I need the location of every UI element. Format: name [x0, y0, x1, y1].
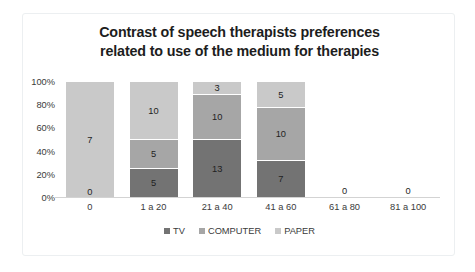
y-tick-100: 100%	[25, 77, 55, 87]
bar-slot-5: 0	[376, 82, 440, 198]
bar-stack-2[interactable]: 13 10 3	[193, 82, 241, 198]
bar-label-empty-4: 0	[313, 186, 377, 196]
y-tick-40: 40%	[25, 147, 55, 157]
bar-segment-computer-2[interactable]: 10	[193, 95, 241, 140]
y-tick-20: 20%	[25, 170, 55, 180]
y-tick-80: 80%	[25, 100, 55, 110]
bar-label-tv-0: 0	[66, 187, 114, 197]
plot-area: 100% 80% 60% 40% 20% 0% 7 0 5 5 10	[58, 82, 440, 198]
bar-segment-paper-2[interactable]: 3	[193, 82, 241, 95]
bar-segment-paper-0[interactable]: 7	[66, 82, 114, 198]
legend-item-paper[interactable]: PAPER	[275, 226, 315, 236]
legend-swatch-paper-icon	[275, 228, 281, 234]
bar-slot-4: 0	[313, 82, 377, 198]
legend-label-tv: TV	[173, 226, 185, 236]
bar-stack-3[interactable]: 7 10 5	[257, 82, 305, 198]
bar-segment-paper-1[interactable]: 10	[130, 82, 178, 140]
bar-label-empty-5: 0	[376, 186, 440, 196]
x-tick-5: 81 a 100	[376, 202, 440, 212]
legend-label-paper: PAPER	[284, 226, 315, 236]
y-tick-60: 60%	[25, 123, 55, 133]
bar-slot-2: 13 10 3	[185, 82, 249, 198]
x-tick-1: 1 a 20	[122, 202, 186, 212]
legend-swatch-computer-icon	[199, 228, 205, 234]
x-tick-2: 21 a 40	[185, 202, 249, 212]
bar-slot-1: 5 5 10	[122, 82, 186, 198]
x-axis-line	[55, 197, 440, 198]
chart-title-line-2: related to use of the medium for therapi…	[23, 42, 456, 61]
x-tick-4: 61 a 80	[313, 202, 377, 212]
legend-swatch-tv-icon	[164, 228, 170, 234]
x-axis: 0 1 a 20 21 a 40 41 a 60 61 a 80 81 a 10…	[58, 202, 440, 212]
bar-segment-tv-2[interactable]: 13	[193, 140, 241, 198]
bar-segment-paper-3[interactable]: 5	[257, 82, 305, 108]
chart-legend: TV COMPUTER PAPER	[23, 226, 456, 236]
bar-slot-3: 7 10 5	[249, 82, 313, 198]
bar-stack-1[interactable]: 5 5 10	[130, 82, 178, 198]
x-tick-3: 41 a 60	[249, 202, 313, 212]
chart-container: Contrast of speech therapists preference…	[22, 13, 455, 256]
x-tick-0: 0	[58, 202, 122, 212]
legend-label-computer: COMPUTER	[208, 226, 261, 236]
chart-title: Contrast of speech therapists preference…	[23, 23, 456, 61]
legend-item-computer[interactable]: COMPUTER	[199, 226, 261, 236]
bar-segment-tv-3[interactable]: 7	[257, 161, 305, 198]
y-axis: 100% 80% 60% 40% 20% 0%	[25, 82, 55, 198]
bar-segment-computer-1[interactable]: 5	[130, 140, 178, 169]
bar-slot-0: 7 0	[58, 82, 122, 198]
legend-item-tv[interactable]: TV	[164, 226, 185, 236]
y-tick-0: 0%	[25, 193, 55, 203]
bar-stack-0[interactable]: 7 0	[66, 82, 114, 198]
bar-segment-tv-1[interactable]: 5	[130, 169, 178, 198]
chart-title-line-1: Contrast of speech therapists preference…	[23, 23, 456, 42]
bar-group: 7 0 5 5 10 13 10 3	[58, 82, 440, 198]
bar-segment-computer-3[interactable]: 10	[257, 108, 305, 161]
